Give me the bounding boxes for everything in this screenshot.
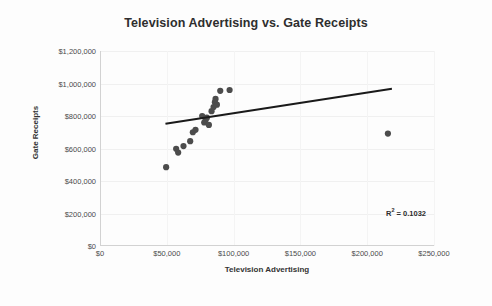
scatter-chart: Television Advertising vs. Gate Receipts… <box>0 0 492 306</box>
data-point <box>214 102 220 108</box>
y-tick-label: $600,000 <box>4 144 96 153</box>
x-axis-title: Television Advertising <box>100 265 434 274</box>
data-point <box>180 143 186 149</box>
r-squared-annotation: R2 = 0.1032 <box>386 207 426 218</box>
y-tick-label: $800,000 <box>4 112 96 121</box>
data-point <box>192 127 198 133</box>
data-point <box>226 87 232 93</box>
x-tick-label: $0 <box>96 249 104 258</box>
x-tick-label: $200,000 <box>352 249 383 258</box>
data-point <box>385 130 391 136</box>
x-axis-tick-labels: $0$50,000$100,000$150,000$200,000$250,00… <box>100 249 434 263</box>
scatter-series <box>100 51 434 246</box>
gridline-vertical <box>434 51 435 246</box>
y-tick-label: $400,000 <box>4 177 96 186</box>
data-point <box>163 164 169 170</box>
chart-title: Television Advertising vs. Gate Receipts <box>0 16 492 30</box>
y-axis-title: Gate Receipts <box>31 78 40 188</box>
data-point <box>206 122 212 128</box>
data-point <box>212 96 218 102</box>
x-tick-label: $250,000 <box>418 249 449 258</box>
x-tick-label: $50,000 <box>153 249 180 258</box>
x-tick-label: $100,000 <box>218 249 249 258</box>
y-tick-label: $200,000 <box>4 209 96 218</box>
data-point <box>175 149 181 155</box>
data-points-group <box>163 87 391 170</box>
y-tick-label: $1,000,000 <box>4 79 96 88</box>
data-point <box>187 138 193 144</box>
plot-area <box>100 51 434 246</box>
y-tick-label: $0 <box>4 242 96 251</box>
y-axis-tick-labels: $0$200,000$400,000$600,000$800,000$1,000… <box>0 51 96 246</box>
trendline <box>165 89 391 124</box>
y-tick-label: $1,200,000 <box>4 47 96 56</box>
x-tick-label: $150,000 <box>285 249 316 258</box>
r-squared-value: = 0.1032 <box>394 209 426 218</box>
data-point <box>217 88 223 94</box>
